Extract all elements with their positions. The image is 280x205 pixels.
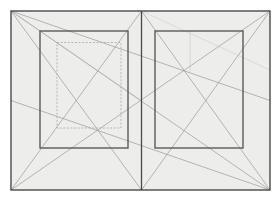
page-construction-diagram	[0, 0, 280, 205]
canon-diagram-canvas	[0, 0, 280, 205]
